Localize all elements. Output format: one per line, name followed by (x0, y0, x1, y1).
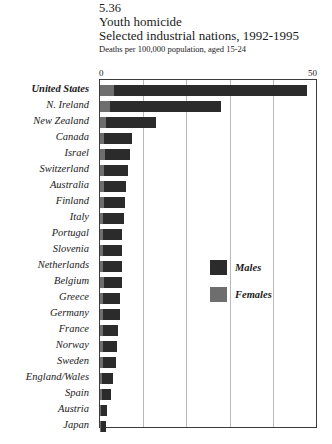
bar-row (100, 194, 125, 210)
bar-segment-males (101, 421, 105, 432)
figure-subtitle: Selected industrial nations, 1992-1995 (99, 29, 329, 43)
stacked-bar[interactable] (100, 85, 307, 96)
category-label: New Zealand (0, 113, 94, 129)
bar-segment-males (104, 181, 126, 192)
stacked-bar[interactable] (100, 261, 122, 272)
category-label: Canada (0, 129, 94, 145)
bar-row (100, 354, 116, 370)
bar-row (100, 306, 120, 322)
category-label: N. Ireland (0, 97, 94, 113)
figure-header: 5.36 Youth homicide Selected industrial … (99, 2, 329, 55)
bar-segment-males (104, 197, 126, 208)
stacked-bar[interactable] (100, 373, 113, 384)
stacked-bar[interactable] (100, 133, 132, 144)
category-label: United States (0, 81, 94, 97)
bar-row (100, 274, 122, 290)
stacked-bar[interactable] (100, 229, 122, 240)
bar-row (100, 226, 122, 242)
category-label: Spain (0, 385, 94, 401)
bar-row (100, 418, 106, 434)
bar-segment-males (103, 245, 122, 256)
x-axis-labels: 0 50 (99, 68, 317, 79)
bar-series-container (100, 80, 316, 427)
bar-row (100, 82, 307, 98)
stacked-bar[interactable] (100, 341, 117, 352)
figure-title: Youth homicide (99, 15, 329, 29)
x-axis-min-label: 0 (99, 68, 104, 78)
bar-segment-males (103, 341, 117, 352)
stacked-bar[interactable] (100, 325, 118, 336)
stacked-bar[interactable] (100, 165, 128, 176)
legend-item-males: Males (210, 260, 261, 275)
bar-segment-males (103, 229, 122, 240)
bar-segment-females (100, 101, 110, 112)
stacked-bar[interactable] (100, 277, 122, 288)
bar-row (100, 146, 130, 162)
bar-row (100, 258, 122, 274)
stacked-bar[interactable] (100, 117, 156, 128)
category-label: Japan (0, 417, 94, 433)
stacked-bar[interactable] (100, 293, 120, 304)
bar-segment-males (103, 261, 122, 272)
legend-label-females: Females (235, 289, 272, 300)
category-label: Israel (0, 145, 94, 161)
category-label: France (0, 321, 94, 337)
stacked-bar[interactable] (100, 197, 125, 208)
category-label: Norway (0, 337, 94, 353)
category-label: Italy (0, 209, 94, 225)
category-label: Belgium (0, 273, 94, 289)
bar-segment-males (104, 165, 128, 176)
bar-segment-males (102, 373, 113, 384)
stacked-bar[interactable] (100, 101, 221, 112)
stacked-bar[interactable] (100, 181, 126, 192)
bar-segment-males (103, 213, 124, 224)
category-label: Australia (0, 177, 94, 193)
bar-segment-males (110, 101, 221, 112)
category-label: Finland (0, 193, 94, 209)
bar-segment-males (103, 309, 120, 320)
bar-row (100, 338, 117, 354)
bar-row (100, 386, 111, 402)
bar-row (100, 210, 124, 226)
bar-row (100, 402, 107, 418)
legend-swatch-males-icon (210, 260, 227, 275)
bar-segment-males (103, 325, 118, 336)
stacked-bar[interactable] (100, 245, 122, 256)
category-label: Portugal (0, 225, 94, 241)
bar-segment-males (114, 85, 308, 96)
bar-row (100, 162, 128, 178)
figure-units: Deaths per 100,000 population, aged 15-2… (99, 44, 329, 55)
bar-row (100, 242, 122, 258)
bar-segment-males (103, 357, 116, 368)
category-label: Austria (0, 401, 94, 417)
category-label: Greece (0, 289, 94, 305)
stacked-bar[interactable] (100, 405, 107, 416)
bar-row (100, 370, 113, 386)
category-label: Sweden (0, 353, 94, 369)
stacked-bar[interactable] (100, 421, 106, 432)
category-label: England/Wales (0, 369, 94, 385)
stacked-bar[interactable] (100, 357, 116, 368)
legend-swatch-females-icon (210, 287, 227, 302)
x-axis-max-label: 50 (308, 68, 317, 78)
bar-row (100, 114, 156, 130)
bar-row (100, 178, 126, 194)
plot-area: Males Females (99, 79, 317, 428)
bar-segment-males (105, 149, 130, 160)
bar-segment-males (101, 405, 107, 416)
stacked-bar[interactable] (100, 213, 124, 224)
bar-segment-males (106, 117, 156, 128)
bar-row (100, 130, 132, 146)
bar-segment-males (104, 133, 131, 144)
bar-segment-males (102, 389, 111, 400)
stacked-bar[interactable] (100, 309, 120, 320)
category-axis: United StatesN. IrelandNew ZealandCanada… (0, 79, 94, 428)
stacked-bar[interactable] (100, 389, 111, 400)
category-label: Switzerland (0, 161, 94, 177)
bar-row (100, 322, 118, 338)
bar-segment-males (104, 277, 122, 288)
category-label: Germany (0, 305, 94, 321)
bar-row (100, 290, 120, 306)
stacked-bar[interactable] (100, 149, 130, 160)
bar-row (100, 98, 221, 114)
